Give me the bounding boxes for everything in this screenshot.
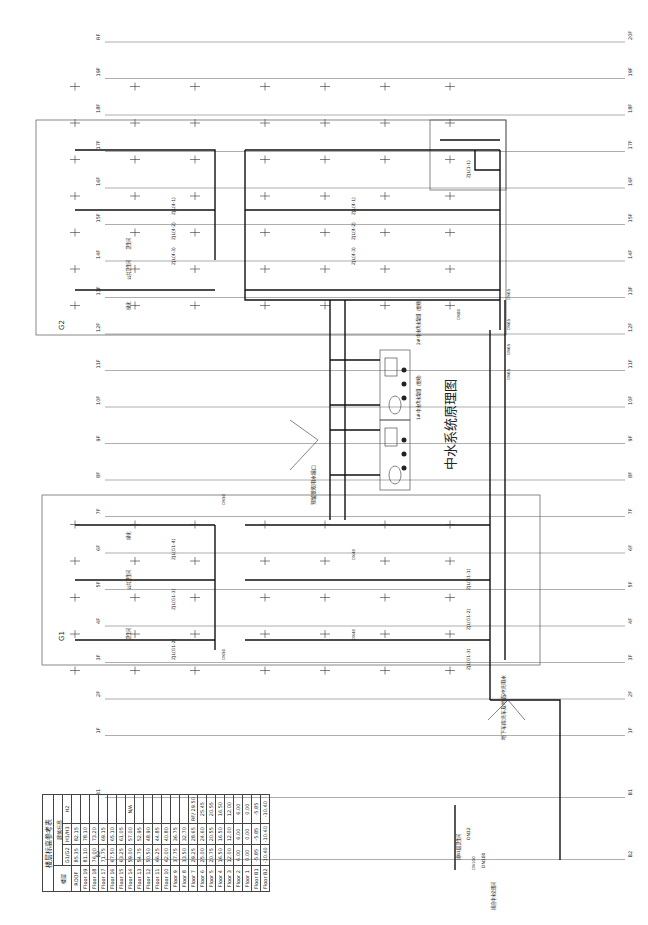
fixture-outlet xyxy=(445,192,455,200)
level-cell-floor: Floor 18 xyxy=(90,866,99,892)
level-cell-h13: -5.85 xyxy=(252,824,261,845)
riser-label: ZJL(4-1) xyxy=(351,197,356,215)
floor-label-right: 13F xyxy=(627,286,633,295)
floor-label-left: 4F xyxy=(95,618,101,624)
level-cell-g: 85.35 xyxy=(72,845,81,866)
riser-label: ZJL(G1-3) xyxy=(466,648,471,670)
level-cell-floor: Floor 3 xyxy=(225,866,234,892)
level-cell-h2 xyxy=(81,795,90,824)
fixture-outlet xyxy=(130,156,140,164)
level-cell-g: 67.50 xyxy=(108,845,117,866)
pipe-size-label: DN40 xyxy=(351,548,356,560)
riser-label: ZJL(4-3) xyxy=(171,247,176,265)
level-cell-floor: Floor B1 xyxy=(252,866,261,892)
level-cell-g: 20.75 xyxy=(207,845,216,866)
floor-label-left: 3F xyxy=(95,654,101,660)
floor-label-left: 9F xyxy=(95,435,101,441)
level-cell-g: 6.00 xyxy=(234,845,243,866)
fixture-outlet xyxy=(130,667,140,675)
fixture-outlet xyxy=(70,557,80,565)
fixture-outlet xyxy=(190,630,200,638)
level-cell-h2 xyxy=(108,795,117,824)
level-reference-table: 楼层标高参考表 楼层 建筑标高 G1/G2 H1/H3 H2 ROOF85.35… xyxy=(42,760,318,892)
level-cell-g: 37.75 xyxy=(171,845,180,866)
fixture-outlet xyxy=(380,667,390,675)
riser-label: ZJL(4-1) xyxy=(171,197,176,215)
level-cell-g: 54.75 xyxy=(135,845,144,866)
level-table-row: Floor B2-10.40-10.40-10.40 xyxy=(261,795,270,892)
fixture-outlet xyxy=(260,156,270,164)
fixture-outlet xyxy=(260,265,270,273)
reserved-outlet-note: 预留景观用水接口 xyxy=(310,465,317,505)
level-cell-g: 50.50 xyxy=(144,845,153,866)
fixture-outlet xyxy=(380,192,390,200)
fixture-outlet xyxy=(320,83,330,91)
fixture-outlet xyxy=(260,667,270,675)
fixture-outlet xyxy=(260,630,270,638)
level-cell-h13: 20.55 xyxy=(207,824,216,845)
floor-label-left: 19F xyxy=(95,67,101,76)
floor-label-right: 20F xyxy=(627,31,633,40)
floor-label-right: B1 xyxy=(627,789,633,796)
fixture-outlet xyxy=(260,521,270,529)
fixture-outlet xyxy=(70,630,80,638)
floor-label-right: 1F xyxy=(627,727,633,733)
fixture-outlet xyxy=(380,302,390,310)
drawing-title: 中水系统原理图 xyxy=(443,379,458,470)
pump-set-1 xyxy=(380,350,410,420)
fixture-outlet xyxy=(130,521,140,529)
level-cell-h13: 36.75 xyxy=(171,824,180,845)
level-cell-h13: 16.50 xyxy=(216,824,225,845)
level-table-row: Floor 833.5032.70 xyxy=(180,795,189,892)
basement-note: 地下车库洗车及地面冲洗用水 xyxy=(500,675,507,740)
level-cell-floor: Floor 11 xyxy=(153,866,162,892)
floor-label-right: 7F xyxy=(627,508,633,514)
floor-label-left: RF xyxy=(95,34,101,40)
level-cell-h2 xyxy=(72,795,81,824)
fixture-outlet xyxy=(380,229,390,237)
fixture-outlet xyxy=(445,156,455,164)
fixture-outlet xyxy=(320,667,330,675)
level-cell-h2 xyxy=(90,795,99,824)
level-cell-h2: RF/ 29.50 xyxy=(189,795,198,824)
fixture-label: 公共卫生间 xyxy=(125,259,132,280)
level-cell-g: 81.10 xyxy=(81,845,90,866)
level-cell-h2 xyxy=(117,795,126,824)
level-cell-g: 33.50 xyxy=(180,845,189,866)
pipe-size-label: DN100 xyxy=(471,856,476,870)
level-cell-h2: 6.00 xyxy=(234,795,243,824)
level-cell-floor: Floor 16 xyxy=(108,866,117,892)
fixture-outlet xyxy=(190,156,200,164)
level-table-row: Floor 1771.7569.15 xyxy=(99,795,108,892)
floor-label-right: 2F xyxy=(627,691,633,697)
level-table-row: Floor 312.0012.0012.00 xyxy=(225,795,234,892)
level-table-row: Floor 520.7520.5520.55 xyxy=(207,795,216,892)
pipe-size-label: DN65 xyxy=(506,288,511,300)
riser-label: ZJL(G1-4) xyxy=(171,538,176,560)
level-cell-h2: 20.55 xyxy=(207,795,216,824)
level-table-row: Floor 625.0024.6025.45 xyxy=(198,795,207,892)
col-level: 建筑标高 xyxy=(54,795,63,866)
level-table-row: Floor 1981.1078.10 xyxy=(81,795,90,892)
b1-zone-box xyxy=(430,120,506,190)
fixture-outlet xyxy=(380,521,390,529)
fixture-outlet xyxy=(190,302,200,310)
pipe-size-label: DN50 xyxy=(221,648,226,660)
floor-label-left: 11F xyxy=(95,359,101,368)
pipe-size-label: DN65 xyxy=(506,368,511,380)
level-table-row: Floor B1-5.85-5.85-5.85 xyxy=(252,795,261,892)
source-pipe-size: DN100 xyxy=(481,852,486,868)
fixture-outlet xyxy=(190,229,200,237)
col-h1h3: H1/H3 xyxy=(63,824,72,845)
fixture-label: 卫生间 xyxy=(125,237,132,250)
fixture-outlet xyxy=(320,630,330,638)
col-floor: 楼层 xyxy=(54,866,72,892)
fixture-outlet xyxy=(320,521,330,529)
pipe-size-label: DN65 xyxy=(506,343,511,355)
floor-label-left: 8F xyxy=(95,472,101,478)
level-cell-h13: 0.00 xyxy=(243,824,252,845)
riser-label: ZJL(G1-3) xyxy=(171,588,176,610)
fixture-outlet xyxy=(70,156,80,164)
pipe-size-label: DN40 xyxy=(351,628,356,640)
riser-label: ZJL(G1-2) xyxy=(171,638,176,660)
